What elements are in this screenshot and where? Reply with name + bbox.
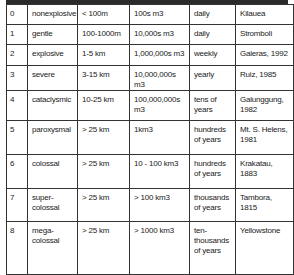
volume-cell: 10,000,000s m3 — [130, 66, 190, 91]
description-cell: mega-colossal — [28, 222, 78, 275]
volume-cell: 100,000,000s m3 — [130, 91, 190, 121]
plume-height-cell: 10-25 km — [78, 91, 130, 121]
table-row: 4 cataclysmic 10-25 km 100,000,000s m3 t… — [7, 91, 294, 121]
frequency-cell: tens of years — [190, 91, 236, 121]
plume-height-cell: 1-5 km — [78, 45, 130, 66]
frequency-cell: daily — [190, 25, 236, 45]
frequency-cell: weekly — [190, 45, 236, 66]
plume-height-cell: > 25 km — [78, 121, 130, 155]
description-cell: severe — [28, 66, 78, 91]
table-row: 5 paroxysmal > 25 km 1km3 hundreds of ye… — [7, 121, 294, 155]
description-cell: gentle — [28, 25, 78, 45]
description-cell: cataclysmic — [28, 91, 78, 121]
vei-cell: 4 — [7, 91, 28, 121]
frequency-cell: hundreds of years — [190, 155, 236, 189]
example-cell: Stromboli — [236, 25, 294, 45]
volume-cell: 10 - 100 km3 — [130, 155, 190, 189]
example-cell: Ruiz, 1985 — [236, 66, 294, 91]
volume-cell: 1km3 — [130, 121, 190, 155]
vei-cell: 1 — [7, 25, 28, 45]
description-cell: paroxysmal — [28, 121, 78, 155]
example-cell: Kilauea — [236, 5, 294, 25]
volume-cell: 1,000,000s m3 — [130, 45, 190, 66]
frequency-cell: ten-thousands of years — [190, 222, 236, 275]
volume-cell: > 100 km3 — [130, 189, 190, 222]
frequency-cell: daily — [190, 5, 236, 25]
plume-height-cell: > 25 km — [78, 189, 130, 222]
volume-cell: 100s m3 — [130, 5, 190, 25]
plume-height-cell: < 100m — [78, 5, 130, 25]
plume-height-cell: > 25 km — [78, 222, 130, 275]
table-row: 3 severe 3-15 km 10,000,000s m3 yearly R… — [7, 66, 294, 91]
frequency-cell: hundreds of years — [190, 121, 236, 155]
frequency-cell: yearly — [190, 66, 236, 91]
description-cell: colossal — [28, 155, 78, 189]
example-cell: Mt. S. Helens, 1981 — [236, 121, 294, 155]
plume-height-cell: 3-15 km — [78, 66, 130, 91]
frequency-cell: thousands of years — [190, 189, 236, 222]
example-cell: Yellowstone — [236, 222, 294, 275]
table-row: 6 colossal > 25 km 10 - 100 km3 hundreds… — [7, 155, 294, 189]
vei-cell: 3 — [7, 66, 28, 91]
table-row: 1 gentle 100-1000m 10,000s m3 daily Stro… — [7, 25, 294, 45]
volume-cell: 10,000s m3 — [130, 25, 190, 45]
example-cell: Galunggung, 1982 — [236, 91, 294, 121]
plume-height-cell: 100-1000m — [78, 25, 130, 45]
volume-cell: > 1000 km3 — [130, 222, 190, 275]
vei-cell: 5 — [7, 121, 28, 155]
description-cell: explosive — [28, 45, 78, 66]
table-row: 2 explosive 1-5 km 1,000,000s m3 weekly … — [7, 45, 294, 66]
vei-cell: 2 — [7, 45, 28, 66]
vei-cell: 0 — [7, 5, 28, 25]
vei-table: 0 nonexplosive < 100m 100s m3 daily Kila… — [6, 4, 294, 275]
vei-cell: 6 — [7, 155, 28, 189]
description-cell: nonexplosive — [28, 5, 78, 25]
table-row: 8 mega-colossal > 25 km > 1000 km3 ten-t… — [7, 222, 294, 275]
plume-height-cell: > 25 km — [78, 155, 130, 189]
table-row: 0 nonexplosive < 100m 100s m3 daily Kila… — [7, 5, 294, 25]
example-cell: Tambora, 1815 — [236, 189, 294, 222]
table-row: 7 super-colossal > 25 km > 100 km3 thous… — [7, 189, 294, 222]
vei-cell: 8 — [7, 222, 28, 275]
example-cell: Krakatau, 1883 — [236, 155, 294, 189]
vei-cell: 7 — [7, 189, 28, 222]
description-cell: super-colossal — [28, 189, 78, 222]
example-cell: Galeras, 1992 — [236, 45, 294, 66]
